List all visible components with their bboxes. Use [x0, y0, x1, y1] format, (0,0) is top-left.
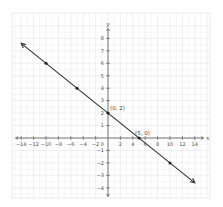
y-tick-label: 5 [101, 73, 104, 79]
y-tick-label: 8 [101, 35, 104, 41]
x-tick-label: −8 [55, 141, 62, 147]
x-tick-label: −12 [28, 141, 39, 147]
data-point [169, 161, 172, 164]
y-tick-label: −2 [97, 160, 104, 166]
y-tick-label: 4 [101, 85, 104, 91]
x-tick-label: 10 [167, 141, 173, 147]
x-tick-label: 14 [192, 141, 198, 147]
x-tick-label: −2 [92, 141, 99, 147]
x-tick-label: −10 [41, 141, 52, 147]
x-tick-label: 8 [156, 141, 159, 147]
y-tick-label: 7 [101, 48, 104, 54]
y-tick-label: 3 [101, 97, 104, 103]
y-tick-label: −3 [97, 172, 104, 178]
y-axis-label: y [105, 20, 110, 28]
y-tick-label: −1 [97, 147, 104, 153]
origin-label: 0 [101, 141, 104, 147]
y-tick-label: −4 [97, 185, 104, 191]
y-tick-label: 6 [101, 60, 104, 66]
data-point [138, 137, 141, 140]
x-tick-label: 12 [179, 141, 185, 147]
data-point [76, 87, 79, 90]
x-tick-label: −14 [16, 141, 27, 147]
point-label: (5, 0) [135, 130, 150, 136]
data-point [45, 62, 48, 65]
x-tick-label: −4 [80, 141, 87, 147]
y-tick-label: 1 [101, 122, 104, 128]
x-tick-label: −6 [67, 141, 74, 147]
x-tick-label: 2 [119, 141, 122, 147]
coordinate-plane-chart: xy −14−12−10−8−6−4−22468101214−4−3−2−112… [0, 0, 223, 207]
y-tick-label: 2 [101, 110, 104, 116]
data-point [107, 112, 110, 115]
point-label: (0, 2) [110, 105, 125, 111]
x-tick-label: 4 [131, 141, 134, 147]
